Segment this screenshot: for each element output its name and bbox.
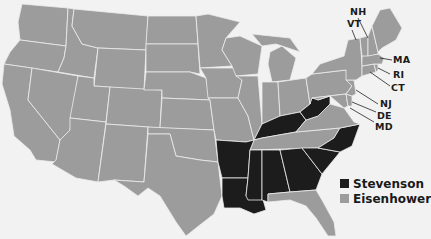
leader-VT	[352, 30, 356, 40]
legend: Stevenson Eisenhower	[340, 176, 431, 206]
label-MA: MA	[393, 54, 410, 65]
label-RI: RI	[393, 69, 404, 80]
state-KS	[160, 98, 214, 130]
leader-DE	[352, 102, 376, 112]
state-SD	[146, 44, 200, 74]
state-FL	[268, 190, 336, 236]
legend-label-stevenson: Stevenson	[353, 177, 424, 191]
state-MT	[72, 9, 148, 50]
label-NH: NH	[350, 6, 366, 17]
state-WA	[18, 4, 68, 46]
label-NJ: NJ	[380, 98, 392, 109]
legend-item-stevenson: Stevenson	[340, 176, 431, 191]
legend-swatch-eisenhower	[340, 194, 349, 203]
label-VT: VT	[347, 18, 361, 29]
leader-MD	[350, 108, 374, 122]
legend-label-eisenhower: Eisenhower	[353, 192, 431, 206]
legend-item-eisenhower: Eisenhower	[340, 191, 431, 206]
legend-swatch-stevenson	[340, 179, 349, 188]
leader-NJ	[356, 90, 378, 104]
leader-RI	[378, 68, 390, 74]
label-CT: CT	[391, 82, 405, 93]
state-ME	[372, 8, 402, 52]
state-ND	[146, 16, 198, 44]
label-MD: MD	[375, 121, 393, 132]
state-NM	[98, 124, 148, 182]
leader-CT	[370, 72, 390, 86]
state-WY	[94, 48, 146, 90]
state-CO	[106, 87, 162, 128]
label-DE: DE	[377, 110, 392, 121]
